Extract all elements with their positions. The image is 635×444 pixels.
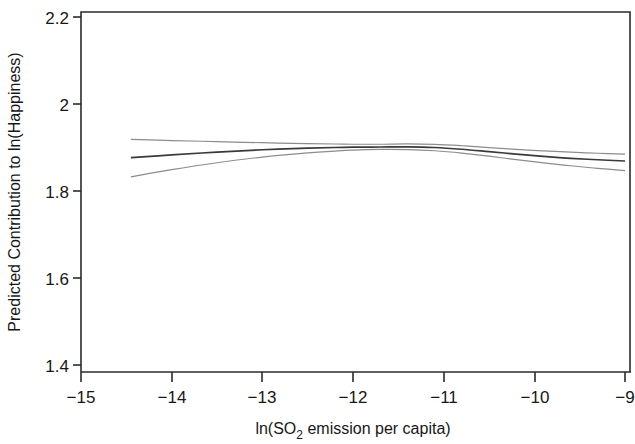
x-tick-label-minus12: −12 [339,388,368,407]
x-tick-label-minus13: −13 [248,388,277,407]
chart-figure: 2.2 2 1.8 1.6 1.4 −15 −14 −13 −12 −11 −1… [0,0,635,444]
y-tick-label-1p4: 1.4 [45,357,69,376]
data-curves [131,139,625,176]
y-axis-ticks: 2.2 2 1.8 1.6 1.4 [45,9,81,376]
x-tick-label-minus9: −9 [615,388,634,407]
plot-frame [81,12,631,372]
x-tick-label-minus14: −14 [158,388,187,407]
x-tick-label-minus11: −11 [430,388,458,407]
y-tick-label-2: 2 [60,96,69,115]
y-axis-title: Predicted Contribution to ln(Happiness) [6,52,23,331]
y-tick-label-1p8: 1.8 [45,183,69,202]
x-tick-label-minus15: −15 [67,388,96,407]
y-tick-label-2p2: 2.2 [45,9,69,28]
x-axis-title: ln(SO2 emission per capita) [255,420,450,442]
plot-box-border [81,12,630,372]
y-tick-label-1p6: 1.6 [45,270,69,289]
x-tick-label-minus10: −10 [521,388,550,407]
predicted-contribution-line-chart: 2.2 2 1.8 1.6 1.4 −15 −14 −13 −12 −11 −1… [0,0,635,444]
x-axis-title-tail: emission per capita) [303,420,451,437]
x-axis-ticks: −15 −14 −13 −12 −11 −10 −9 [67,372,635,407]
x-axis-title-main: ln(SO [255,420,296,437]
